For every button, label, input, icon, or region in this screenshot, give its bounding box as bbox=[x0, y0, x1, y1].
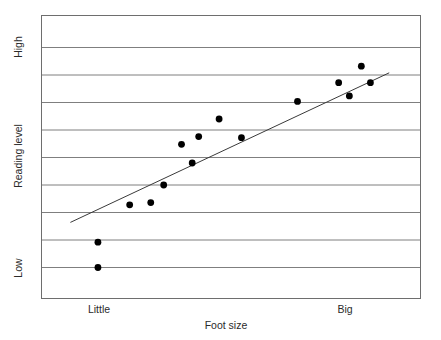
data-point bbox=[126, 201, 133, 208]
data-point bbox=[367, 79, 374, 86]
data-point bbox=[178, 141, 185, 148]
data-point bbox=[294, 98, 301, 105]
data-point bbox=[195, 133, 202, 140]
data-point bbox=[160, 182, 167, 189]
x-axis-tick-little: Little bbox=[88, 303, 110, 315]
x-axis-tick-big: Big bbox=[337, 303, 352, 315]
y-axis-tick-high: High bbox=[12, 36, 24, 58]
x-axis-title: Foot size bbox=[205, 319, 248, 331]
data-point bbox=[238, 134, 245, 141]
y-axis-title: Reading level bbox=[12, 124, 24, 188]
y-axis-tick-low: Low bbox=[12, 258, 24, 278]
data-point bbox=[335, 79, 342, 86]
data-point bbox=[95, 239, 102, 246]
figure-background bbox=[0, 0, 441, 340]
data-point bbox=[346, 93, 353, 100]
data-point bbox=[147, 199, 154, 206]
chart-canvas: High Low Reading level Little Big Foot s… bbox=[0, 0, 441, 340]
scatter-plot-figure: High Low Reading level Little Big Foot s… bbox=[0, 0, 441, 340]
data-point bbox=[189, 160, 196, 167]
data-point bbox=[95, 264, 102, 271]
data-point bbox=[216, 116, 223, 123]
data-point bbox=[358, 63, 365, 70]
